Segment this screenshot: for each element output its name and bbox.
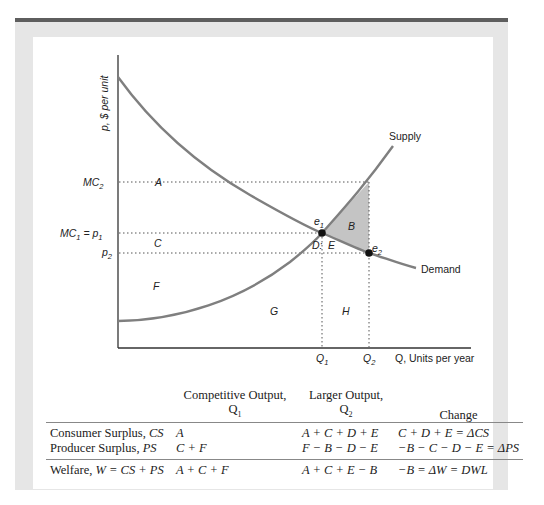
cell-change: −B = ΔW = DWL	[394, 459, 523, 478]
area-e-label: E	[328, 239, 336, 251]
area-b-label: B	[348, 220, 355, 232]
q1-label: Q1	[316, 352, 328, 367]
cell-competitive: A	[172, 422, 298, 441]
table-row: Welfare, W = CS + PS A + C + F A + C + E…	[46, 459, 523, 478]
cell-change: C + D + E = ΔCS	[394, 422, 523, 441]
table-row: Producer Surplus, PS C + F F − B − D − E…	[46, 441, 523, 460]
cell-larger: F − B − D − E	[298, 441, 394, 460]
area-c-label: C	[154, 237, 162, 249]
row-label: Consumer Surplus, CS	[46, 422, 172, 441]
area-g-label: G	[270, 305, 278, 317]
p2-label: p2	[101, 246, 113, 261]
area-a-label: A	[154, 176, 162, 188]
header-blank	[46, 388, 172, 422]
e1-label: e1	[314, 215, 324, 230]
welfare-table: Competitive Output,Q1 Larger Output,Q2 C…	[46, 388, 523, 478]
header-change: Change	[394, 388, 523, 422]
header-larger: Larger Output,Q2	[298, 388, 394, 422]
demand-label: Demand	[421, 263, 461, 275]
cell-change: −B − C − D − E = ΔPS	[394, 441, 523, 460]
header-competitive: Competitive Output,Q1	[172, 388, 298, 422]
area-d-label: D:	[312, 239, 323, 251]
x-axis-label: Q, Units per year	[395, 352, 475, 364]
row-label: Welfare, W = CS + PS	[46, 459, 172, 478]
area-f-label: F	[153, 280, 160, 292]
cell-larger: A + C + E − B	[298, 459, 394, 478]
q2-label: Q2	[363, 352, 376, 367]
guide-lines	[119, 182, 369, 347]
table-header-row: Competitive Output,Q1 Larger Output,Q2 C…	[46, 388, 523, 422]
demand-curve	[118, 77, 416, 268]
mc1-p1-label: MC1 = p1	[60, 227, 103, 242]
mc2-label: MC2	[83, 176, 104, 191]
welfare-chart: p, $ per unit MC2 MC1 = p1 p2 Q1 Q2 Q, U…	[0, 0, 544, 380]
y-axis-label: p, $ per unit	[98, 74, 110, 132]
cell-competitive: A + C + F	[172, 459, 298, 478]
cell-larger: A + C + D + E	[298, 422, 394, 441]
table-row: Consumer Surplus, CS A A + C + D + E C +…	[46, 422, 523, 441]
cell-competitive: C + F	[172, 441, 298, 460]
supply-label: Supply	[389, 130, 422, 142]
e1-point	[318, 229, 326, 237]
row-label: Producer Surplus, PS	[46, 441, 172, 460]
area-h-label: H	[342, 305, 350, 317]
